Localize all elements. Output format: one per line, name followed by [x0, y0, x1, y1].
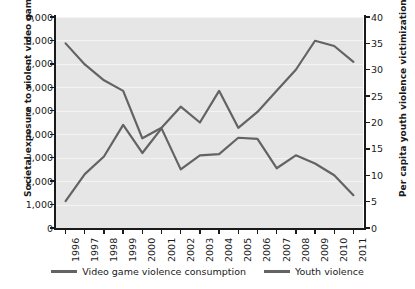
y-tick-mark: [50, 227, 55, 228]
y-tick-mark: [365, 175, 370, 176]
y-tick-label: 2,000: [26, 176, 53, 187]
x-tick-label: 2009: [319, 238, 330, 262]
x-tick-mark: [353, 229, 354, 234]
x-tick-label: 2008: [300, 238, 311, 262]
y-tick-mark: [365, 227, 370, 228]
x-tick-mark: [122, 229, 123, 234]
y-tick-label: 10: [371, 170, 383, 181]
x-tick-label: 2004: [223, 238, 234, 262]
y-tick-label: 9,000: [26, 12, 53, 23]
y-tick-label: 6,000: [26, 82, 53, 93]
x-tick-label: 2005: [242, 238, 253, 262]
x-tick-label: 2000: [146, 238, 157, 262]
y-tick-mark: [365, 95, 370, 96]
chart-legend: Video game violence consumption Youth vi…: [0, 266, 415, 277]
y-tick-mark: [365, 201, 370, 202]
x-tick-mark: [180, 229, 181, 234]
axis-spine-left: [54, 15, 56, 230]
legend-line-swatch: [51, 270, 77, 272]
x-tick-mark: [161, 229, 162, 234]
x-tick-mark: [334, 229, 335, 234]
plot-area: [56, 17, 363, 228]
x-tick-label: 1997: [89, 238, 100, 262]
x-tick-mark: [257, 229, 258, 234]
x-tick-label: 1998: [108, 238, 119, 262]
y-tick-mark: [365, 69, 370, 70]
y-tick-mark: [50, 110, 55, 111]
x-tick-mark: [276, 229, 277, 234]
x-tick-label: 2011: [357, 238, 368, 262]
y-tick-mark: [50, 63, 55, 64]
y-tick-label: 30: [371, 64, 383, 75]
y-tick-label: 8,000: [26, 35, 53, 46]
data-lines: [56, 17, 363, 228]
y-tick-label: 7,000: [26, 58, 53, 69]
legend-line-swatch: [264, 270, 290, 272]
axis-spine-bottom: [54, 228, 366, 230]
legend-label: Youth violence: [295, 266, 364, 277]
series-line: [66, 125, 354, 201]
y-tick-label: 40: [371, 12, 383, 23]
y-tick-mark: [365, 122, 370, 123]
x-tick-label: 2010: [338, 238, 349, 262]
x-tick-mark: [65, 229, 66, 234]
y-tick-mark: [50, 157, 55, 158]
x-tick-mark: [84, 229, 85, 234]
y-tick-label: 3,000: [26, 152, 53, 163]
y-tick-label: 5,000: [26, 105, 53, 116]
x-tick-mark: [295, 229, 296, 234]
y-tick-label: 0: [371, 223, 377, 234]
x-tick-label: 2002: [185, 238, 196, 262]
y-tick-mark: [365, 43, 370, 44]
y-tick-label: 1,000: [26, 199, 53, 210]
x-tick-label: 1996: [70, 238, 81, 262]
x-tick-mark: [218, 229, 219, 234]
chart-figure: Societal exposure to violent video games…: [0, 0, 415, 289]
x-tick-mark: [199, 229, 200, 234]
y-tick-label: 20: [371, 117, 383, 128]
x-tick-mark: [314, 229, 315, 234]
x-tick-label: 2006: [261, 238, 272, 262]
legend-entry-youth-violence: Youth violence: [264, 266, 364, 277]
x-tick-label: 2007: [281, 238, 292, 262]
series-line: [66, 41, 354, 139]
y-axis-title-right: Per capita youth violence victimization: [398, 27, 408, 197]
y-tick-label: 4,000: [26, 129, 53, 140]
x-tick-mark: [142, 229, 143, 234]
y-tick-label: 25: [371, 91, 383, 102]
y-tick-label: 35: [371, 38, 383, 49]
y-tick-label: 5: [371, 196, 377, 207]
y-tick-mark: [50, 40, 55, 41]
x-tick-mark: [103, 229, 104, 234]
y-tick-mark: [365, 16, 370, 17]
x-tick-mark: [238, 229, 239, 234]
y-tick-label: 15: [371, 143, 383, 154]
y-tick-mark: [365, 148, 370, 149]
x-tick-label: 1999: [127, 238, 138, 262]
x-tick-label: 2001: [166, 238, 177, 262]
legend-label: Video game violence consumption: [82, 266, 246, 277]
y-tick-mark: [50, 16, 55, 17]
legend-entry-video-game-violence-consumption: Video game violence consumption: [51, 266, 246, 277]
y-tick-mark: [50, 180, 55, 181]
y-tick-mark: [50, 87, 55, 88]
y-tick-mark: [50, 204, 55, 205]
x-tick-label: 2003: [204, 238, 215, 262]
y-tick-mark: [50, 134, 55, 135]
